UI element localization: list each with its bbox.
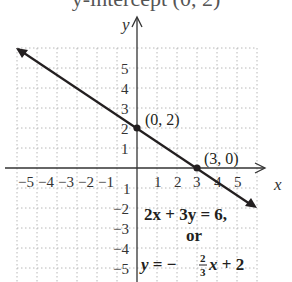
y-tick-labels: 5 4 3 2 1 1 −2 −3 −4 −5 [113, 61, 131, 277]
y-tick: −2 [113, 201, 129, 217]
frac-numerator: 2 [200, 252, 206, 264]
frac-denominator: 3 [200, 266, 206, 278]
x-tick: 3 [193, 174, 201, 190]
equation-annotation: 2x + 3y = 6, or y = − 2 3 x + 2 [139, 205, 244, 278]
y-tick: 1 [121, 141, 129, 157]
eq-end: + 2 [218, 255, 245, 274]
y-axis-label: y [120, 15, 130, 34]
line-arrow-left-icon [16, 48, 28, 58]
x-tick: 5 [234, 174, 242, 190]
y-tick: 4 [121, 81, 129, 97]
point-x-intercept [193, 164, 200, 171]
x-tick: −2 [78, 174, 94, 190]
equation-or: or [186, 226, 203, 245]
y-tick: −4 [113, 241, 129, 257]
equation-standard-form: 2x + 3y = 6, [144, 205, 227, 224]
x-tick: −3 [58, 174, 74, 190]
line-graph: y x −5 −4 −3 −2 −1 1 2 3 4 5 5 4 3 2 1 1… [0, 0, 292, 282]
y-tick: 2 [121, 121, 129, 137]
y-tick: −3 [113, 221, 129, 237]
y-tick: 5 [121, 61, 129, 77]
eq-x: x [208, 255, 218, 274]
point-y-intercept [133, 124, 140, 131]
equation-tail: x + 2 [208, 255, 244, 274]
x-tick: −4 [38, 174, 54, 190]
point-label-3-0: (3, 0) [204, 150, 239, 168]
x-tick: 2 [174, 174, 182, 190]
x-axis-label: x [273, 175, 282, 194]
eq-mid: = − [149, 255, 177, 274]
equation-slope-intercept: y = − [139, 255, 176, 274]
x-tick: −1 [98, 174, 114, 190]
y-tick: −5 [113, 261, 129, 277]
x-tick: 1 [154, 174, 162, 190]
x-tick: −5 [18, 174, 34, 190]
y-tick: 1 [123, 181, 131, 197]
eq-y: y [139, 255, 149, 274]
point-label-0-2: (0, 2) [145, 111, 180, 129]
y-tick: 3 [121, 101, 129, 117]
